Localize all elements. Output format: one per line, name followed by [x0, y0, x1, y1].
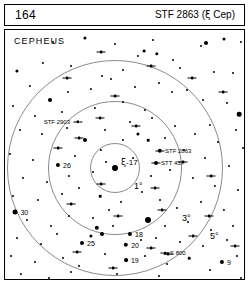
field-star	[129, 121, 131, 123]
field-star	[194, 133, 196, 135]
double-star-tick	[63, 78, 66, 79]
object-label-stt-457: STT 457	[161, 160, 184, 166]
field-star	[101, 75, 103, 77]
field-star	[232, 72, 234, 74]
field-star	[152, 39, 154, 41]
field-star	[240, 277, 242, 279]
double-star-tick	[109, 268, 112, 269]
center-star-label: ξ-17	[121, 158, 138, 167]
field-star	[32, 159, 34, 161]
double-star-tick	[151, 163, 154, 164]
field-star	[179, 67, 181, 69]
field-star	[50, 225, 52, 227]
field-star	[147, 139, 150, 142]
field-star	[202, 99, 204, 101]
field-star	[46, 181, 48, 183]
field-star	[112, 225, 114, 227]
double-star-tick	[120, 216, 123, 217]
double-star-tick	[153, 248, 156, 249]
double-star-tick	[207, 176, 210, 177]
star-label-26: 26	[63, 162, 71, 169]
field-star	[40, 243, 42, 245]
double-star-tick	[164, 210, 167, 211]
star-chart-page: 164 STF 2863 (ξ Cep) CEPHEUS 1°3°5°STF 2…	[0, 0, 251, 294]
field-star	[12, 105, 14, 107]
field-star	[56, 233, 58, 235]
field-star	[166, 263, 168, 265]
star-label-25: 25	[87, 240, 95, 247]
field-star	[237, 189, 239, 191]
field-star	[92, 279, 94, 280]
double-star-tick	[73, 204, 76, 205]
field-star	[52, 41, 54, 43]
double-star-tick	[115, 268, 118, 269]
double-star-tick	[79, 252, 82, 253]
star-label-19: 19	[131, 257, 139, 264]
page-header: 164 STF 2863 (ξ Cep)	[4, 4, 245, 26]
double-star-tick	[211, 216, 214, 217]
double-star-tick	[103, 184, 106, 185]
field-star	[187, 221, 189, 223]
field-star	[140, 239, 142, 241]
field-star	[155, 237, 157, 239]
field-star	[242, 147, 244, 149]
field-star	[143, 50, 146, 53]
field-star	[200, 201, 202, 203]
labeled-star	[124, 258, 128, 262]
field-star	[164, 137, 166, 139]
double-star-tick	[189, 236, 192, 237]
field-star	[48, 98, 52, 102]
field-star	[29, 85, 31, 87]
chart-title: STF 2863 (ξ Cep)	[155, 9, 235, 20]
field-star	[104, 129, 106, 131]
star-field: CEPHEUS 1°3°5°STF 2903STF 2863STT 457S 8…	[5, 30, 244, 279]
field-star	[150, 175, 152, 177]
double-star-tick	[67, 204, 70, 205]
field-star	[134, 86, 136, 88]
constellation-label: CEPHEUS	[14, 36, 65, 46]
field-star	[226, 239, 228, 241]
double-star-tick	[73, 122, 76, 123]
field-star	[202, 245, 204, 247]
field-star	[200, 45, 202, 47]
double-star-tick	[54, 148, 57, 149]
field-star	[122, 101, 124, 103]
page-number: 164	[15, 8, 36, 22]
field-star	[10, 255, 12, 257]
field-star	[108, 209, 110, 211]
labeled-star	[237, 112, 242, 117]
double-star-tick	[75, 138, 78, 139]
double-star-tick	[102, 118, 105, 119]
field-star	[114, 43, 116, 45]
double-star-tick	[188, 78, 191, 79]
field-star	[159, 199, 161, 201]
field-star	[110, 78, 112, 80]
double-star-tick	[81, 138, 84, 139]
double-star-tick	[194, 78, 197, 79]
star-label-18: 18	[135, 231, 143, 238]
field-star	[74, 155, 76, 157]
double-star-tick	[97, 52, 100, 53]
field-star	[9, 153, 11, 155]
field-star	[34, 115, 36, 117]
field-star	[137, 55, 139, 57]
double-star-tick	[117, 96, 120, 97]
double-star-tick	[147, 66, 150, 67]
field-star	[223, 209, 225, 211]
object-label-stf-2903: STF 2903	[5, 119, 72, 125]
field-star	[174, 125, 176, 127]
double-star-tick	[97, 184, 100, 185]
center-star-marker	[112, 165, 118, 171]
field-star	[104, 253, 106, 255]
double-star-tick	[160, 253, 163, 254]
field-star	[116, 273, 118, 275]
field-star	[12, 195, 14, 197]
field-star	[37, 199, 39, 201]
labeled-star	[220, 260, 224, 264]
field-star	[48, 277, 50, 279]
chart-title-suffix: Cep)	[211, 9, 235, 20]
double-star-tick	[111, 96, 114, 97]
double-star-tick	[138, 126, 141, 127]
field-star	[16, 237, 18, 239]
field-star	[171, 91, 173, 93]
